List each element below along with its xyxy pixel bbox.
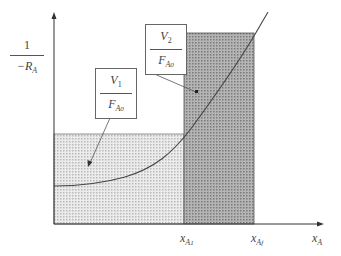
fraction-bar — [100, 93, 132, 94]
y-axis-label-numerator: 1 — [10, 38, 44, 55]
x-axis-label: xA — [312, 232, 322, 247]
x-tick-xaf: xAf — [251, 232, 263, 247]
reactor-2-volume: V2 — [146, 25, 186, 45]
reactor-2-feed: FA0 — [146, 53, 186, 69]
y-label-den-text: −R — [17, 59, 32, 73]
reactor-1-feed: FA0 — [96, 97, 136, 113]
v1-text: V — [110, 73, 117, 87]
fraction-bar — [150, 49, 182, 50]
reactor-2-area — [184, 33, 254, 224]
v2-text: V — [160, 29, 167, 43]
v1-sub: 1 — [118, 80, 122, 89]
reactor-1-label-box: V1 FA0 — [95, 68, 137, 119]
x-tick-xa1: xA1 — [180, 232, 194, 247]
y-label-den-sub: A — [32, 66, 37, 75]
f1-subsub: 0 — [120, 106, 124, 114]
y-axis-label-denominator: −RA — [10, 56, 44, 75]
x-axis-arrow-icon — [317, 222, 324, 227]
reactor-2-label-box: V2 FA0 — [145, 24, 187, 75]
y-axis-label: 1 −RA — [10, 38, 44, 75]
v2-sub: 2 — [168, 36, 172, 45]
reactor-1-volume: V1 — [96, 69, 136, 89]
xa-sub: A — [317, 238, 322, 247]
y-axis-arrow-icon — [52, 12, 57, 19]
xa1-subsub: 1 — [190, 239, 194, 247]
xaf-subsub: f — [261, 239, 263, 247]
f2-subsub: 0 — [170, 62, 174, 70]
leader-dot-2-icon — [195, 90, 198, 93]
